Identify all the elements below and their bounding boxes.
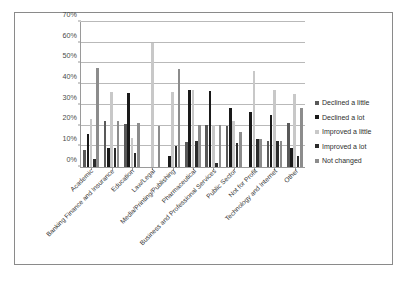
legend-swatch-icon (315, 130, 319, 134)
bar (249, 112, 252, 167)
bar (212, 125, 215, 167)
bar (198, 125, 201, 167)
y-axis-tick-label: 30% (63, 94, 77, 101)
bar (219, 125, 222, 167)
chart-frame: 0%10%20%30%40%50%60%70% AcademicBanking … (14, 12, 393, 265)
legend-swatch-icon (315, 115, 319, 119)
bar-groups (81, 22, 305, 167)
legend-item[interactable]: Improved a little (315, 128, 371, 135)
bar (117, 121, 120, 167)
legend-item[interactable]: Declined a little (315, 99, 371, 106)
bar (178, 69, 181, 167)
bar (127, 93, 130, 167)
bar (290, 148, 293, 167)
bar-group (101, 22, 121, 167)
x-axis-tick-label: Other (283, 168, 299, 184)
legend-swatch-icon (315, 101, 319, 105)
legend-swatch-icon (315, 159, 319, 163)
y-axis-tick-label: 10% (63, 135, 77, 142)
legend-item[interactable]: Not changed (315, 157, 371, 164)
bar-group (142, 22, 162, 167)
legend-label: Improved a little (322, 128, 371, 135)
bar (158, 126, 161, 167)
bar (171, 92, 174, 167)
bar-group (122, 22, 142, 167)
bar (259, 139, 262, 167)
y-axis-tick-label: 60% (63, 32, 77, 39)
legend-label: Declined a little (322, 99, 369, 106)
bar (280, 141, 283, 167)
legend-item[interactable]: Declined a lot (315, 114, 371, 121)
bar (229, 108, 232, 167)
bar (300, 108, 303, 167)
y-axis-tick-label: 50% (63, 53, 77, 60)
y-axis-tick-label: 0% (67, 156, 77, 163)
bar-group (264, 22, 284, 167)
chart-legend: Declined a littleDeclined a lotImproved … (315, 99, 371, 164)
bar (215, 163, 218, 167)
bar (131, 138, 134, 167)
bar (239, 132, 242, 167)
bar (87, 134, 90, 167)
bar (297, 156, 300, 167)
bar (114, 148, 117, 167)
bar (226, 126, 229, 167)
legend-label: Not changed (322, 157, 362, 164)
bar (188, 90, 191, 167)
bar-group (81, 22, 101, 167)
bar (83, 150, 86, 167)
bar-group (162, 22, 182, 167)
plot-area: 0%10%20%30%40%50%60%70% (80, 22, 305, 168)
bar-group (285, 22, 305, 167)
bar (276, 141, 279, 167)
legend-item[interactable]: Improved a lot (315, 143, 371, 150)
bar (253, 71, 256, 167)
bar (110, 92, 113, 167)
y-axis-tick-label: 40% (63, 73, 77, 80)
bar (137, 123, 140, 167)
bar (134, 153, 137, 168)
bar (209, 91, 212, 167)
bar (192, 90, 195, 167)
bar (151, 43, 154, 167)
bar (293, 94, 296, 167)
bar (124, 124, 127, 168)
legend-swatch-icon (315, 144, 319, 148)
bar (175, 146, 178, 167)
bar (256, 139, 259, 167)
bar (107, 148, 110, 167)
y-axis-tick-label: 20% (63, 115, 77, 122)
bar (168, 156, 171, 167)
bar (93, 159, 96, 167)
y-axis-tick-label: 70% (63, 11, 77, 18)
bar-group (244, 22, 264, 167)
bar (287, 123, 290, 167)
bar (205, 125, 208, 167)
bar (104, 121, 107, 167)
bar (90, 119, 93, 167)
bar (270, 115, 273, 167)
legend-label: Improved a lot (322, 143, 366, 150)
bar-group (183, 22, 203, 167)
bar (96, 68, 99, 167)
bar-group (203, 22, 223, 167)
bar (236, 143, 239, 167)
bar-group (224, 22, 244, 167)
bar (185, 142, 188, 167)
bar (267, 141, 270, 167)
bar (273, 90, 276, 167)
legend-label: Declined a lot (322, 114, 364, 121)
bar (232, 121, 235, 167)
bar (195, 141, 198, 167)
